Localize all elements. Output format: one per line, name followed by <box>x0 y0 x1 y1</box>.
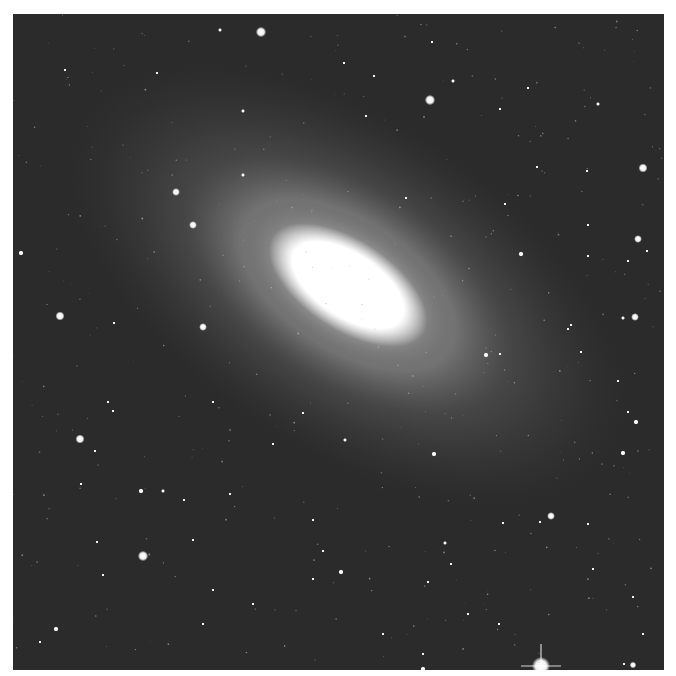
star <box>504 203 507 206</box>
galaxy-photograph <box>13 14 664 670</box>
star <box>634 235 642 243</box>
star <box>113 322 116 325</box>
star <box>431 451 436 456</box>
star <box>161 489 165 493</box>
star <box>256 27 266 37</box>
star <box>80 483 83 486</box>
star <box>18 250 23 255</box>
star <box>425 95 435 105</box>
star <box>405 197 408 200</box>
star <box>539 521 542 524</box>
star <box>620 450 625 455</box>
star <box>189 221 197 229</box>
star <box>431 41 434 44</box>
star <box>536 166 539 169</box>
star <box>499 108 502 111</box>
star <box>499 353 502 356</box>
star <box>567 328 570 331</box>
star <box>627 411 630 414</box>
star <box>212 401 215 404</box>
star <box>343 62 346 65</box>
star <box>592 568 595 571</box>
star <box>631 313 639 321</box>
star <box>312 578 315 581</box>
star <box>587 523 590 526</box>
star <box>642 633 645 636</box>
star <box>202 623 205 626</box>
star <box>94 450 97 453</box>
star <box>102 574 105 577</box>
star <box>138 488 143 493</box>
star <box>112 410 115 413</box>
star <box>75 434 84 443</box>
star <box>183 499 186 502</box>
star <box>192 539 195 542</box>
star <box>483 352 488 357</box>
star <box>64 69 67 72</box>
star <box>107 401 110 404</box>
star <box>55 311 64 320</box>
star <box>241 109 245 113</box>
star <box>621 316 625 320</box>
star <box>172 188 180 196</box>
star <box>518 251 523 256</box>
star <box>632 596 635 599</box>
star <box>138 551 148 561</box>
star <box>596 102 600 106</box>
star <box>467 613 470 616</box>
star <box>427 581 430 584</box>
star <box>451 79 455 83</box>
star <box>580 351 583 354</box>
star <box>623 663 626 666</box>
star <box>502 522 505 525</box>
star <box>586 170 589 173</box>
star <box>338 569 343 574</box>
star <box>422 653 425 656</box>
star <box>547 512 555 520</box>
star <box>627 260 630 263</box>
star <box>156 72 159 75</box>
star <box>633 419 638 424</box>
star <box>218 28 222 32</box>
star <box>343 438 347 442</box>
star <box>212 589 215 592</box>
star <box>570 324 573 327</box>
star <box>373 75 376 78</box>
star <box>527 87 530 90</box>
star <box>450 563 453 566</box>
star <box>53 626 58 631</box>
star <box>39 641 42 644</box>
star <box>630 662 637 669</box>
star <box>587 255 590 258</box>
star <box>199 323 207 331</box>
star <box>312 519 315 522</box>
star <box>322 550 325 553</box>
star <box>365 115 368 118</box>
star <box>587 224 590 227</box>
star <box>617 380 620 383</box>
star <box>498 623 501 626</box>
star-field <box>13 14 664 670</box>
star <box>302 412 305 415</box>
star <box>646 250 649 253</box>
star <box>638 163 647 172</box>
star <box>443 541 447 545</box>
star <box>96 541 99 544</box>
star <box>382 633 385 636</box>
star <box>252 603 255 606</box>
star <box>241 173 245 177</box>
star <box>229 493 232 496</box>
star <box>272 443 275 446</box>
